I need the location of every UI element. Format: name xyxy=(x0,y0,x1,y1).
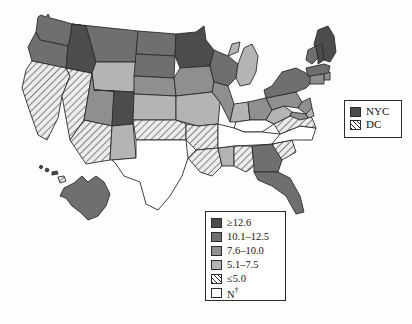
legend-item-nyc: NYC xyxy=(350,105,396,118)
state-HI xyxy=(39,165,66,183)
state-CT xyxy=(310,74,324,84)
state-AK xyxy=(60,176,110,220)
bin-5-swatch-icon xyxy=(211,274,222,284)
legend-item-bin-4: 5.1–7.5 xyxy=(211,258,280,272)
state-AR xyxy=(186,124,218,150)
bin-4-label: 5.1–7.5 xyxy=(227,260,259,271)
legend-item-bin-6: N† xyxy=(211,286,280,300)
legend-item-bin-5: ≤5.0 xyxy=(211,272,280,286)
us-choropleth-figure: NYC DC ≥12.6 10.1–12.5 7.6–10.0 5.1–7.5 … xyxy=(0,0,412,324)
state-ND xyxy=(136,31,176,56)
bin-6-swatch-icon xyxy=(211,288,222,298)
nyc-label: NYC xyxy=(366,106,389,117)
city-legend: NYC DC xyxy=(344,100,402,138)
legend-item-bin-1: ≥12.6 xyxy=(211,216,280,230)
state-NM xyxy=(110,124,136,160)
state-KS xyxy=(133,94,176,120)
legend-item-dc: DC xyxy=(350,118,396,131)
state-LA xyxy=(188,148,222,176)
bin-3-label: 7.6–10.0 xyxy=(227,246,264,257)
bin-6-label: N† xyxy=(227,287,239,300)
state-WI xyxy=(210,50,238,86)
dagger-symbol: † xyxy=(235,286,239,295)
state-WY xyxy=(92,62,136,92)
bin-4-swatch-icon xyxy=(211,260,222,270)
bin-2-swatch-icon xyxy=(211,232,222,242)
state-NY xyxy=(264,68,314,98)
bin-1-swatch-icon xyxy=(211,218,222,228)
state-OK xyxy=(133,120,186,140)
bin-3-swatch-icon xyxy=(211,246,222,256)
legend-item-bin-2: 10.1–12.5 xyxy=(211,230,280,244)
dc-label: DC xyxy=(366,119,381,130)
state-NH xyxy=(316,44,324,64)
state-IA xyxy=(174,66,214,96)
state-SD xyxy=(134,54,175,78)
bin-5-label: ≤5.0 xyxy=(227,274,246,285)
bin-1-label: ≥12.6 xyxy=(227,218,251,229)
states-layer xyxy=(22,14,336,220)
legend-item-bin-3: 7.6–10.0 xyxy=(211,244,280,258)
state-NE xyxy=(134,76,176,96)
nyc-swatch-icon xyxy=(350,107,361,117)
state-MN xyxy=(175,26,214,68)
state-MO xyxy=(176,92,220,126)
state-AL xyxy=(234,146,254,172)
state-FL xyxy=(254,172,304,214)
bin-legend: ≥12.6 10.1–12.5 7.6–10.0 5.1–7.5 ≤5.0 N† xyxy=(205,211,286,301)
dc-swatch-icon xyxy=(350,120,361,130)
bin-2-label: 10.1–12.5 xyxy=(227,232,269,243)
